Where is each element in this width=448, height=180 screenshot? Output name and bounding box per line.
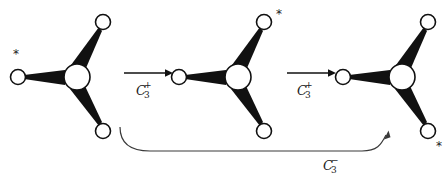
molecule-2: * bbox=[172, 7, 283, 139]
ligand-lower-right-atom bbox=[96, 124, 111, 139]
asterisk-marker-molecule-3: * bbox=[436, 139, 442, 153]
bond-center-to-upper-right bbox=[232, 27, 263, 68]
ligand-left-atom bbox=[11, 70, 26, 85]
bond-center-to-lower-right bbox=[70, 86, 102, 126]
bond-center-to-upper-right bbox=[396, 27, 427, 68]
ligand-upper-right-atom bbox=[96, 15, 111, 30]
asterisk-marker-molecule-1: * bbox=[13, 47, 19, 61]
arrow-2-label: C 3 + bbox=[297, 80, 313, 100]
bond-center-to-upper-right bbox=[71, 27, 102, 68]
central-atom bbox=[225, 64, 251, 90]
ligand-lower-right-atom bbox=[257, 124, 272, 139]
central-atom bbox=[389, 64, 415, 90]
ligand-upper-right-atom bbox=[257, 15, 272, 30]
arrow-1-label: C 3 + bbox=[136, 80, 152, 100]
arrow-3-label-subscript: 3 bbox=[331, 165, 337, 175]
arrow-2-label-subscript: 3 bbox=[305, 90, 311, 100]
arrow-1-label-superscript: + bbox=[144, 80, 152, 90]
bond-center-to-left bbox=[24, 70, 65, 85]
arrow-3-label: C 3 − bbox=[323, 155, 339, 175]
bond-center-to-lower-right bbox=[231, 86, 263, 126]
arrow-1-label-subscript: 3 bbox=[144, 90, 150, 100]
ligand-left-atom bbox=[172, 70, 187, 85]
arrow-2: C 3 + bbox=[287, 69, 336, 100]
arrow-3-label-superscript: − bbox=[331, 155, 339, 165]
bond-center-to-lower-right bbox=[395, 86, 427, 126]
arrow-2-head-icon bbox=[328, 69, 336, 77]
arrow-2-label-superscript: + bbox=[305, 80, 313, 90]
ligand-upper-right-atom bbox=[421, 15, 436, 30]
ligand-left-atom bbox=[336, 70, 351, 85]
ligand-lower-right-atom bbox=[421, 124, 436, 139]
bond-center-to-left bbox=[349, 70, 390, 85]
arrow-3: C 3 − bbox=[120, 127, 391, 175]
arrow-1: C 3 + bbox=[124, 69, 173, 100]
asterisk-marker-molecule-2: * bbox=[276, 7, 282, 21]
molecule-1: * bbox=[11, 15, 111, 139]
arrow-3-head-icon bbox=[384, 131, 391, 140]
arrow-3-shaft bbox=[120, 127, 386, 151]
central-atom bbox=[64, 64, 90, 90]
permutation-diagram: * C 3 + * C 3 + bbox=[0, 0, 448, 180]
bond-center-to-left bbox=[185, 70, 226, 85]
